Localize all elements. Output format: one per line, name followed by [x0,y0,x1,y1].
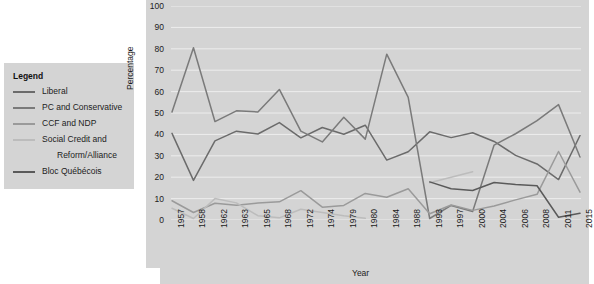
x-axis-tick: 1965 [262,219,272,228]
y-axis-tick: 50 [138,109,164,118]
x-axis-tick: 1988 [412,219,422,228]
x-axis-tick: 1984 [391,219,401,228]
x-axis-tick: 1968 [283,219,293,228]
x-axis-tick: 1963 [240,219,250,228]
y-axis-tick: 0 [138,216,164,225]
legend-item-label: Social Credit and [42,134,107,144]
y-axis-tick: 80 [138,45,164,54]
y-axis-tick: 90 [138,23,164,32]
y-axis-tick: 100 [138,2,164,11]
x-axis-tick: 2011 [563,219,573,228]
x-axis-tick: 2015 [584,219,594,228]
x-axis-tick: 1974 [326,219,336,228]
data-series-lines [172,48,580,219]
chart-svg [171,6,581,220]
x-axis-tick: 1958 [197,219,207,228]
y-axis-tick: 70 [138,66,164,75]
x-axis-tick: 2004 [498,219,508,228]
series-line [172,152,580,214]
x-axis-tick: 1997 [455,219,465,228]
x-axis-tick: 2008 [541,219,551,228]
y-axis-tick: 60 [138,88,164,97]
x-axis-tick: 2000 [477,219,487,228]
legend-item-label: PC and Conservative [42,102,122,112]
legend-color-swatch [13,123,35,125]
y-axis-title: Percentage [125,47,135,90]
legend-color-swatch [13,107,35,109]
x-axis-tick: 1957 [176,219,186,228]
x-axis-tick: 1972 [305,219,315,228]
x-axis-tick: 1993 [434,219,444,228]
legend-color-swatch [13,139,35,141]
y-axis-tick: 30 [138,152,164,161]
x-axis-tick: 1980 [369,219,379,228]
y-axis-tick: 40 [138,130,164,139]
legend-color-swatch [13,91,35,93]
y-axis-tick: 10 [138,195,164,204]
legend-item-label: Reform/Alliance [57,150,117,160]
legend-color-swatch [13,171,35,173]
legend-item-label: CCF and NDP [42,118,96,128]
line-chart-plot-area [171,6,581,220]
x-axis-tick: 1979 [348,219,358,228]
x-axis-title: Year [352,268,369,278]
legend-title: Legend [13,71,43,81]
x-axis-panel [160,222,589,284]
y-axis-tick: 20 [138,173,164,182]
x-axis-tick: 1962 [219,219,229,228]
x-axis-tick: 2006 [520,219,530,228]
legend-item-label: Bloc Québécois [42,166,102,176]
legend-item-label: Liberal [42,86,68,96]
